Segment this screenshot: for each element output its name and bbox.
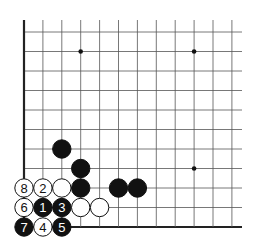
white-stone: [90, 198, 108, 216]
move-number: 3: [58, 200, 65, 215]
white-stone: [72, 198, 90, 216]
black-stone-icon: [72, 179, 90, 197]
white-stone-move-4: 4: [34, 218, 52, 236]
black-stone: [128, 179, 146, 197]
black-stone: [53, 140, 71, 158]
black-stone-move-1: 1: [34, 198, 52, 216]
white-stone-move-6: 6: [15, 198, 33, 216]
white-stone: [53, 179, 71, 197]
star-point: [78, 49, 83, 54]
move-number: 5: [58, 220, 65, 235]
white-stone-icon: [72, 198, 90, 216]
black-stone-icon: [72, 159, 90, 177]
move-number: 7: [20, 220, 27, 235]
black-stone: [109, 179, 127, 197]
black-stone-move-7: 7: [15, 218, 33, 236]
move-number: 4: [39, 220, 46, 235]
white-stone-move-2: 2: [34, 179, 52, 197]
black-stone-icon: [109, 179, 127, 197]
move-number: 8: [20, 181, 27, 196]
go-board: 82613745: [0, 0, 257, 248]
black-stone-icon: [53, 140, 71, 158]
black-stone-icon: [128, 179, 146, 197]
white-stone-icon: [90, 198, 108, 216]
black-stone-move-5: 5: [53, 218, 71, 236]
black-stone-move-3: 3: [53, 198, 71, 216]
move-number: 6: [20, 200, 27, 215]
move-number: 2: [39, 181, 46, 196]
star-point: [192, 49, 197, 54]
star-point: [192, 166, 197, 171]
white-stone-icon: [53, 179, 71, 197]
move-number: 1: [39, 200, 46, 215]
black-stone: [72, 159, 90, 177]
black-stone: [72, 179, 90, 197]
white-stone-move-8: 8: [15, 179, 33, 197]
